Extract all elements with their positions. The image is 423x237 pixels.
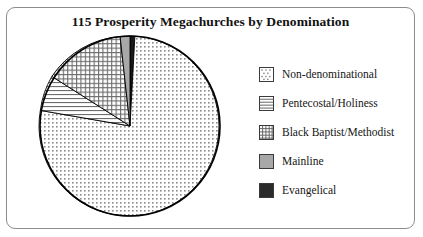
pie-chart [32,30,228,226]
legend-swatch-grid-icon [259,125,274,140]
chart-legend: Non-denominational Pentecostal/Holiness [259,60,415,205]
legend-label-pentecostal-holiness: Pentecostal/Holiness [282,98,378,110]
chart-title: 115 Prosperity Megachurches by Denominat… [6,14,415,30]
legend-label-evangelical: Evangelical [282,185,336,197]
legend-swatch-black-icon [259,183,274,198]
legend-item-non-denominational: Non-denominational [259,60,415,89]
legend-item-black-baptist-methodist: Black Baptist/Methodist [259,118,415,147]
legend-label-mainline: Mainline [282,156,324,168]
legend-label-non-denominational: Non-denominational [282,69,377,81]
legend-swatch-horizontal-lines-icon [259,96,274,111]
legend-item-pentecostal-holiness: Pentecostal/Holiness [259,89,415,118]
legend-item-mainline: Mainline [259,147,415,176]
legend-label-black-baptist-methodist: Black Baptist/Methodist [282,127,394,139]
legend-swatch-gray-icon [259,154,274,169]
legend-item-evangelical: Evangelical [259,176,415,205]
figure-root: 115 Prosperity Megachurches by Denominat… [0,0,423,237]
pie-chart-svg [32,30,228,226]
legend-swatch-dotted-icon [259,67,274,82]
